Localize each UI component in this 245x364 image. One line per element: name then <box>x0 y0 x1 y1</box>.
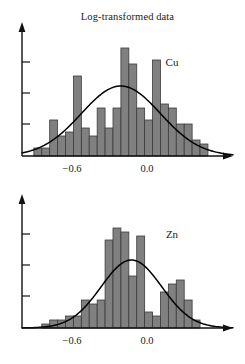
histogram-bar <box>42 148 50 156</box>
histogram-bar <box>81 128 89 156</box>
histogram-bar <box>129 64 137 156</box>
zn-x-axis-arrow <box>223 324 233 331</box>
histogram-bar <box>97 300 105 328</box>
histogram-bar <box>113 108 121 156</box>
histogram-bar <box>73 316 81 328</box>
chart-zn: −0.6 0.0 Zn <box>0 182 245 364</box>
chart-cu: −0.6 0.0 Cu <box>0 0 245 182</box>
histogram-bar <box>50 320 58 328</box>
histogram-bar <box>89 136 97 156</box>
histogram-bar <box>97 108 105 156</box>
zn-xtick-label-1: 0.0 <box>140 335 153 346</box>
cu-x-tick-labels: −0.6 0.0 <box>62 163 153 174</box>
cu-y-ticks <box>22 62 30 124</box>
panel-zn: −0.6 0.0 Zn <box>0 182 245 364</box>
histogram-bar <box>121 232 129 328</box>
histogram-bar <box>153 316 161 328</box>
cu-xtick-label-0: −0.6 <box>62 163 81 174</box>
histogram-bar <box>113 228 121 328</box>
histogram-bar <box>145 312 153 328</box>
histogram-bar <box>168 284 176 328</box>
histogram-bar <box>89 304 97 328</box>
zn-series-label: Zn <box>166 228 179 240</box>
histogram-bar <box>137 236 145 328</box>
histogram-bar <box>176 280 184 328</box>
histogram-bar <box>160 104 168 156</box>
cu-series-label: Cu <box>166 56 179 68</box>
histogram-bar <box>145 120 153 156</box>
histogram-bar <box>105 128 113 156</box>
histogram-bar <box>105 240 113 328</box>
cu-y-axis-arrow <box>19 22 26 32</box>
cu-bars <box>34 48 208 156</box>
cu-xtick-label-1: 0.0 <box>140 163 153 174</box>
histogram-bar <box>176 124 184 156</box>
histogram-bar <box>137 108 145 156</box>
histogram-bar <box>160 292 168 328</box>
histogram-bar <box>168 108 176 156</box>
histogram-bar <box>129 276 137 328</box>
figure-log-transformed-histograms: Log-transformed data −0.6 0.0 Cu <box>0 0 245 364</box>
zn-y-axis-arrow <box>19 194 26 204</box>
zn-x-tick-labels: −0.6 0.0 <box>62 335 153 346</box>
histogram-bar <box>153 60 161 156</box>
histogram-bar <box>73 76 81 156</box>
histogram-bar <box>121 48 129 156</box>
panel-cu: −0.6 0.0 Cu <box>0 0 245 182</box>
zn-xtick-label-0: −0.6 <box>62 335 81 346</box>
zn-y-ticks <box>22 234 30 296</box>
histogram-bar <box>58 136 66 156</box>
zn-bars <box>42 228 200 328</box>
histogram-bar <box>66 132 74 156</box>
